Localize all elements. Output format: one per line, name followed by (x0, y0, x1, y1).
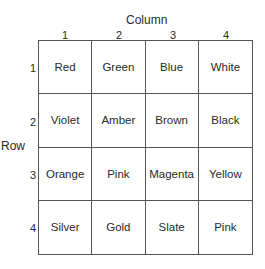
row-label-4: 4 (28, 222, 36, 234)
grid-cell-r3-c1: Orange (39, 148, 92, 201)
row-label-1: 1 (28, 62, 36, 74)
grid-cell-r4-c2: Gold (92, 201, 145, 254)
column-axis-title: Column (126, 13, 167, 27)
grid-cell-r1-c2: Green (92, 41, 145, 94)
grid-cell-r2-c3: Brown (146, 94, 199, 147)
grid-cell-r3-c3: Magenta (146, 148, 199, 201)
grid-cell-r4-c1: Silver (39, 201, 92, 254)
row-label-3: 3 (28, 169, 36, 181)
row-label-2: 2 (28, 116, 36, 128)
grid-cell-r2-c2: Amber (92, 94, 145, 147)
grid-cell-r1-c1: Red (39, 41, 92, 94)
grid-cell-r3-c4: Yellow (199, 148, 252, 201)
color-grid: Red Green Blue White Violet Amber Brown … (38, 40, 253, 255)
grid-cell-r2-c1: Violet (39, 94, 92, 147)
row-axis-title: Row (1, 139, 25, 153)
grid-cell-r3-c2: Pink (92, 148, 145, 201)
grid-cell-r1-c4: White (199, 41, 252, 94)
grid-cell-r4-c4: Pink (199, 201, 252, 254)
grid-cell-r2-c4: Black (199, 94, 252, 147)
grid-cell-r1-c3: Blue (146, 41, 199, 94)
grid-cell-r4-c3: Slate (146, 201, 199, 254)
